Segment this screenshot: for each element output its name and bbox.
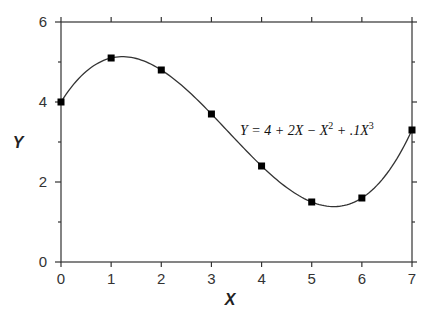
equation-exponent-3: 3 (369, 120, 374, 131)
data-point-marker (158, 67, 165, 74)
x-tick-label: 5 (308, 270, 316, 287)
x-tick-label: 1 (107, 270, 115, 287)
y-tick-labels: 0246 (39, 13, 47, 270)
y-tick-label: 0 (39, 253, 47, 270)
equation-annotation: Y = 4 + 2X − X2 + .1X3 (240, 120, 374, 138)
y-tick-label: 2 (39, 173, 47, 190)
x-tick-label: 7 (408, 270, 416, 287)
data-point-marker (258, 163, 265, 170)
x-tick-label: 3 (207, 270, 215, 287)
x-tick-label: 6 (358, 270, 366, 287)
y-axis-title: Y (13, 134, 25, 151)
data-point-marker (358, 195, 365, 202)
equation-main: Y = 4 + 2X − X (240, 123, 329, 138)
x-tick-label: 2 (157, 270, 165, 287)
x-tick-labels: 01234567 (57, 270, 416, 287)
x-tick-label: 4 (257, 270, 265, 287)
data-point-marker (308, 199, 315, 206)
data-point-marker (58, 99, 65, 106)
polynomial-line-chart: 01234567 0246 X Y Y = 4 + 2X − X2 + .1X3 (0, 0, 429, 319)
y-tick-label: 6 (39, 13, 47, 30)
x-axis-title: X (224, 291, 237, 308)
x-tick-label: 0 (57, 270, 65, 287)
data-point-marker (108, 55, 115, 62)
data-point-marker (409, 127, 416, 134)
equation-mid: + .1X (333, 123, 369, 138)
y-tick-label: 4 (39, 93, 47, 110)
data-point-marker (208, 111, 215, 118)
